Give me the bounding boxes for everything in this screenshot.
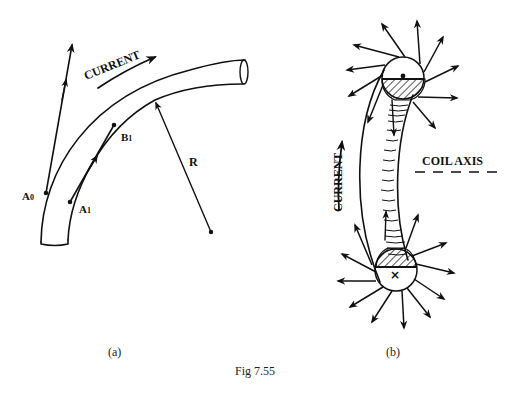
point-b1-label: B1	[121, 131, 132, 143]
curved-conductor	[41, 60, 248, 246]
panel-b: × CURR	[331, 21, 500, 359]
top-cross-section	[382, 57, 425, 100]
internal-arrow-up	[385, 212, 386, 240]
center-point	[209, 230, 213, 234]
figure-caption: Fig 7.55	[235, 364, 275, 378]
figure-canvas: CURRENT A0 A1 B1 R (a)	[0, 0, 517, 397]
field-vector-a0-mid-arrow	[62, 80, 66, 100]
radius-line	[156, 103, 211, 232]
current-in-cross-icon: ×	[390, 268, 400, 282]
coil-axis-label: COIL AXIS	[422, 154, 483, 168]
current-out-dot-icon	[401, 74, 406, 79]
point-b1	[112, 123, 117, 128]
panel-a-label: (a)	[108, 345, 121, 359]
point-a1	[68, 200, 73, 205]
point-a0	[44, 191, 49, 196]
current-label-a: CURRENT	[82, 48, 142, 83]
point-a1-label: A1	[79, 203, 91, 215]
field-vector-a0	[46, 45, 72, 193]
panel-b-label: (b)	[386, 345, 400, 359]
chord-arrow	[88, 156, 97, 171]
radius-label: R	[189, 155, 198, 169]
bottom-cross-section: ×	[375, 248, 417, 291]
point-a0-label: A0	[22, 190, 34, 202]
coil-outer-edge	[360, 70, 384, 282]
panel-a: CURRENT A0 A1 B1 R (a)	[22, 45, 248, 359]
